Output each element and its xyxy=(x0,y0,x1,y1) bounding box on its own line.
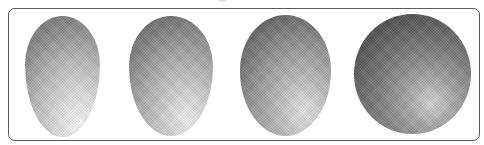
shaded-shape-sphere xyxy=(354,14,471,134)
cropped-caption-glyph xyxy=(218,0,226,2)
